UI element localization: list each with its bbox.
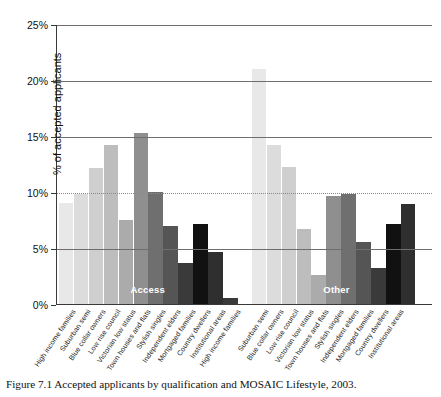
figure-container: AccessOther % of accepted applicants 0%5… [0, 0, 441, 397]
bar [267, 145, 281, 304]
bar [193, 224, 207, 304]
bar [401, 204, 415, 304]
y-tick-mark-0 [51, 305, 56, 306]
gridline-10 [57, 193, 432, 194]
bar [386, 224, 400, 304]
y-tick-mark-20 [51, 81, 56, 82]
group-caption-access: Access [130, 284, 164, 295]
y-tick-label-5: 5% [0, 243, 48, 255]
gridline-25 [57, 25, 432, 26]
bar [282, 167, 296, 304]
y-tick-mark-10 [51, 193, 56, 194]
bar [178, 263, 192, 304]
figure-caption: Figure 7.1 Accepted applicants by qualif… [6, 378, 356, 390]
bars-layer: AccessOther [57, 25, 432, 304]
y-tick-mark-15 [51, 137, 56, 138]
y-tick-label-15: 15% [0, 131, 48, 143]
y-tick-label-0: 0% [0, 299, 48, 311]
bar [223, 298, 237, 304]
gridline-5 [57, 249, 432, 250]
bar [134, 133, 148, 304]
plot-area: AccessOther % of accepted applicants [56, 25, 432, 305]
y-tick-mark-5 [51, 249, 56, 250]
y-axis-title: % of accepted applicants [51, 53, 63, 175]
y-tick-label-10: 10% [0, 187, 48, 199]
bar [59, 203, 73, 304]
y-tick-label-20: 20% [0, 75, 48, 87]
bar [89, 168, 103, 304]
gridline-15 [57, 137, 432, 138]
gridline-20 [57, 81, 432, 82]
bar [104, 145, 118, 304]
bar [297, 229, 311, 304]
y-tick-mark-25 [51, 25, 56, 26]
bar [252, 69, 266, 304]
y-tick-label-25: 25% [0, 19, 48, 31]
bar [163, 226, 177, 304]
group-caption-other: Other [323, 284, 349, 295]
x-axis-labels: High income familiesSuburban semiBlue co… [56, 308, 432, 374]
bar [208, 252, 222, 304]
bar [371, 268, 385, 304]
bar [356, 242, 370, 304]
